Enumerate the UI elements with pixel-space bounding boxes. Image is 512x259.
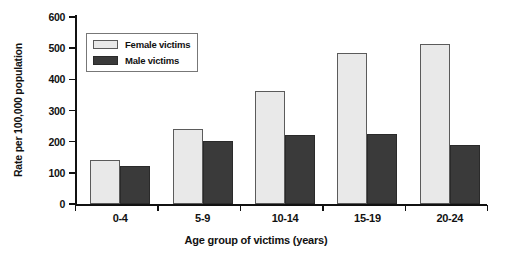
x-tick-3 [322,205,323,211]
bar-15-19-male [367,134,397,204]
bar-group-10-14 [255,17,315,204]
y-tick-label-300: 300 [29,105,65,117]
x-tick-0 [75,205,76,211]
legend-item-female: Female victims [93,38,190,51]
bar-group-15-19 [337,17,397,204]
x-tick-label-0-4: 0-4 [80,212,160,224]
bar-group-20-24 [420,17,480,204]
x-tick-4 [405,205,406,211]
x-tick-1 [157,205,158,211]
legend-swatch-male [93,56,118,65]
y-axis-title: Rate per 100,000 population [12,10,24,210]
legend-item-male: Male victims [93,54,190,67]
bar-0-4-male [120,166,150,204]
x-tick-label-5-9: 5-9 [163,212,243,224]
bar-chart: Rate per 100,000 population 010020030040… [0,0,512,259]
legend-label-male: Male victims [125,55,179,66]
bar-10-14-female [255,91,285,204]
x-tick-label-20-24: 20-24 [410,212,490,224]
bar-15-19-female [337,53,367,204]
bar-20-24-male [450,145,480,204]
bar-5-9-male [203,141,233,204]
y-tick-label-0: 0 [29,198,65,210]
x-tick-2 [240,205,241,211]
bar-20-24-female [420,44,450,204]
x-tick-label-15-19: 15-19 [327,212,407,224]
y-tick-label-200: 200 [29,136,65,148]
y-tick-label-600: 600 [29,11,65,23]
y-tick-label-100: 100 [29,167,65,179]
y-tick-label-400: 400 [29,73,65,85]
x-tick-label-10-14: 10-14 [245,212,325,224]
x-tick-end [487,205,488,211]
y-tick-label-500: 500 [29,42,65,54]
bar-0-4-female [90,160,120,204]
x-axis-line [75,204,487,206]
legend-swatch-female [93,40,118,49]
chart-legend: Female victims Male victims [86,33,198,72]
bar-5-9-female [173,129,203,204]
legend-label-female: Female victims [125,39,190,50]
bar-10-14-male [285,135,315,205]
x-axis-title: Age group of victims (years) [0,234,512,246]
